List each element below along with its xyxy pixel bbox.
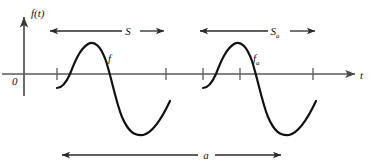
y-axis-label: f(t)	[31, 7, 45, 20]
waveform-shift-diagram: S Sa a f fa f(t) t 0	[0, 0, 370, 166]
shift-a-label: a	[203, 149, 209, 161]
curve-labels-group: f fa	[108, 52, 260, 67]
fa-curve-label-subscript: a	[256, 59, 260, 67]
interval-Sa-label-subscript: a	[276, 32, 280, 40]
x-axis-label: t	[360, 69, 364, 81]
f-curve	[57, 43, 170, 135]
interval-S-measure: S	[50, 25, 164, 37]
f-curve-label: f	[108, 52, 113, 64]
axes-group	[2, 17, 355, 96]
shift-a-measure: a	[62, 149, 281, 161]
interval-Sa-label: Sa	[271, 25, 281, 40]
curves-group	[57, 43, 316, 135]
interval-S-label: S	[125, 25, 131, 37]
fa-curve	[203, 43, 316, 135]
origin-label: 0	[12, 75, 18, 87]
interval-Sa-measure: Sa	[200, 25, 315, 40]
axis-labels-group: f(t) t 0	[12, 7, 364, 87]
